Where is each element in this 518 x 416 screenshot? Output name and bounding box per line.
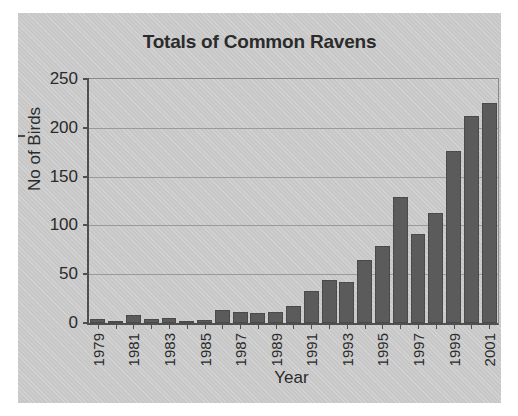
x-tick-label: 1991 bbox=[303, 333, 320, 366]
x-tick bbox=[293, 323, 294, 329]
x-tick-label: 1979 bbox=[89, 333, 106, 366]
bar[interactable] bbox=[339, 282, 354, 323]
x-axis-title: Year bbox=[87, 368, 496, 388]
x-tick bbox=[240, 323, 241, 329]
bar[interactable] bbox=[482, 103, 497, 323]
bar-slot bbox=[178, 79, 196, 323]
bar-slot bbox=[391, 79, 409, 323]
x-tick bbox=[329, 323, 330, 329]
bar[interactable] bbox=[393, 197, 408, 323]
bar-slot bbox=[427, 79, 445, 323]
x-tick bbox=[311, 323, 312, 329]
bar-slot: 1995 bbox=[374, 79, 392, 323]
bar[interactable] bbox=[464, 116, 479, 323]
x-tick-label: 1985 bbox=[196, 333, 213, 366]
x-tick-label: 1983 bbox=[161, 333, 178, 366]
bar-slot: 1989 bbox=[267, 79, 285, 323]
x-tick bbox=[205, 323, 206, 329]
bar[interactable] bbox=[375, 246, 390, 323]
chart-title: Totals of Common Ravens bbox=[18, 31, 501, 53]
x-tick bbox=[222, 323, 223, 329]
bar[interactable] bbox=[357, 260, 372, 323]
bar-slot: 1979 bbox=[89, 79, 107, 323]
bar[interactable] bbox=[268, 312, 283, 323]
chart-figure: Totals of Common Ravens No of Birds 0501… bbox=[18, 13, 501, 403]
x-tick bbox=[418, 323, 419, 329]
bar-slot bbox=[213, 79, 231, 323]
bar-slot bbox=[107, 79, 125, 323]
bar-slot bbox=[142, 79, 160, 323]
bar-slot: 2001 bbox=[480, 79, 498, 323]
scan-artifact-mark bbox=[18, 135, 25, 137]
x-tick bbox=[276, 323, 277, 329]
bar[interactable] bbox=[446, 151, 461, 323]
x-tick bbox=[98, 323, 99, 329]
bar-slot: 1981 bbox=[125, 79, 143, 323]
x-tick-label: 1987 bbox=[232, 333, 249, 366]
x-tick bbox=[187, 323, 188, 329]
x-tick-label: 1993 bbox=[338, 333, 355, 366]
bar-slot: 1993 bbox=[338, 79, 356, 323]
bar-slot: 1987 bbox=[231, 79, 249, 323]
y-tick-label: 250 bbox=[50, 69, 78, 89]
x-tick-label: 1997 bbox=[409, 333, 426, 366]
x-tick bbox=[169, 323, 170, 329]
bar-slot bbox=[320, 79, 338, 323]
x-tick bbox=[489, 323, 490, 329]
x-tick bbox=[454, 323, 455, 329]
bar[interactable] bbox=[233, 312, 248, 323]
bar-slot bbox=[249, 79, 267, 323]
bar[interactable] bbox=[215, 310, 230, 323]
bar[interactable] bbox=[286, 306, 301, 323]
x-tick bbox=[365, 323, 366, 329]
x-tick-label: 1995 bbox=[374, 333, 391, 366]
bar[interactable] bbox=[322, 280, 337, 323]
bar[interactable] bbox=[411, 234, 426, 323]
bar-slot: 1999 bbox=[445, 79, 463, 323]
bar[interactable] bbox=[126, 315, 141, 323]
y-tick-label: 100 bbox=[50, 215, 78, 235]
x-tick bbox=[436, 323, 437, 329]
x-tick bbox=[347, 323, 348, 329]
x-tick-label: 2001 bbox=[481, 333, 498, 366]
bar-slot bbox=[462, 79, 480, 323]
bar-slot: 1983 bbox=[160, 79, 178, 323]
x-tick bbox=[116, 323, 117, 329]
bar-slot bbox=[285, 79, 303, 323]
bar[interactable] bbox=[428, 213, 443, 323]
bar-series: 1979198119831985198719891991199319951997… bbox=[89, 79, 498, 323]
bar-slot: 1991 bbox=[302, 79, 320, 323]
x-tick-label: 1999 bbox=[445, 333, 462, 366]
y-tick-label: 200 bbox=[50, 118, 78, 138]
x-tick bbox=[133, 323, 134, 329]
plot-area: 050100150200250 197919811983198519871989… bbox=[87, 78, 499, 325]
bar-slot: 1997 bbox=[409, 79, 427, 323]
x-tick-label: 1989 bbox=[267, 333, 284, 366]
y-tick-label: 0 bbox=[69, 313, 78, 333]
x-tick bbox=[258, 323, 259, 329]
y-tick-label: 150 bbox=[50, 167, 78, 187]
y-tick-label: 50 bbox=[59, 264, 78, 284]
bar-slot: 1985 bbox=[196, 79, 214, 323]
y-axis-title: No of Birds bbox=[25, 107, 45, 191]
x-tick bbox=[382, 323, 383, 329]
x-tick-label: 1981 bbox=[125, 333, 142, 366]
x-tick bbox=[151, 323, 152, 329]
bar[interactable] bbox=[250, 313, 265, 323]
x-tick bbox=[400, 323, 401, 329]
bar-slot bbox=[356, 79, 374, 323]
x-tick bbox=[471, 323, 472, 329]
bar[interactable] bbox=[304, 291, 319, 323]
